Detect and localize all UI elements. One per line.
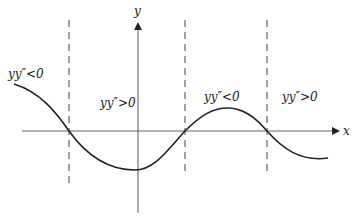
diagram-canvas: y x yy″<0 yy″>0 yy″<0 yy″>0 — [0, 0, 352, 219]
region-label-2: yy″>0 — [99, 96, 136, 110]
curve — [14, 84, 328, 170]
region-label-4: yy″>0 — [281, 90, 318, 104]
region-label-1: yy″<0 — [7, 67, 44, 81]
concavity-diagram: y x yy″<0 yy″>0 yy″<0 yy″>0 — [0, 0, 352, 219]
y-axis-label: y — [133, 4, 141, 18]
region-label-3: yy″<0 — [203, 90, 240, 104]
x-axis-label: x — [343, 124, 350, 138]
